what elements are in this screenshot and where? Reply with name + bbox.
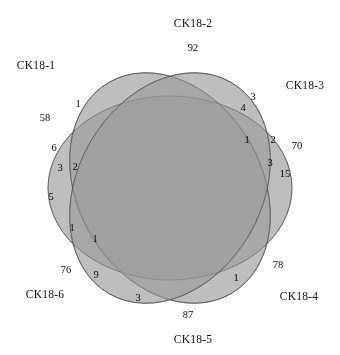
- venn-ellipses: [0, 0, 340, 355]
- venn-diagram-figure: CK18-1CK18-2CK18-3CK18-4CK18-5CK18-6 581…: [0, 0, 340, 355]
- venn-ellipse-set: [29, 36, 310, 339]
